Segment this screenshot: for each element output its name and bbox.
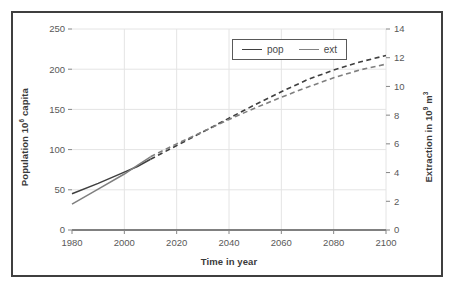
y-axis-right-tick-label: 12 (394, 52, 405, 63)
y-axis-right-title-exponent-2: 3 (422, 92, 429, 96)
x-axis-tick-label: 2100 (375, 237, 396, 248)
y-axis-right-title-exponent: 9 (422, 107, 429, 111)
y-axis-left-title-tail: capita (19, 88, 30, 119)
y-axis-left-tick-label: 50 (54, 184, 65, 195)
series-line-pop-projection (151, 56, 387, 160)
y-axis-right-title-text: Extraction in 10 (423, 110, 434, 182)
series-line-ext-solid (72, 157, 151, 204)
legend-swatch-pop-icon (242, 49, 262, 50)
y-axis-left-title-text: Population 10 (19, 123, 30, 187)
y-axis-right-tick-label: 4 (394, 167, 399, 178)
x-axis-tick-label: 2020 (166, 237, 187, 248)
y-axis-right-tick-label: 2 (394, 196, 399, 207)
y-axis-left-tick-label: 250 (49, 23, 65, 34)
legend-item-ext[interactable]: ext (299, 44, 337, 55)
x-axis-tick-label: 2040 (218, 237, 239, 248)
x-axis-title: Time in year (13, 256, 445, 267)
y-axis-right-tick-label: 6 (394, 138, 399, 149)
x-axis-tick-label: 1980 (61, 237, 82, 248)
series-line-ext-projection (151, 64, 387, 157)
legend-label-pop: pop (267, 44, 284, 55)
x-axis-ticks: 1980200020202040206020802100 (61, 237, 396, 248)
legend-swatch-ext-icon (299, 49, 319, 50)
x-axis-tick-label: 2080 (323, 237, 344, 248)
chart-frame: 050100150200250 02468101214 198020002020… (11, 11, 443, 277)
x-axis-tick-label: 2000 (114, 237, 135, 248)
legend-label-ext: ext (324, 44, 337, 55)
y-axis-right-title-tail: m (423, 95, 434, 106)
y-axis-right-title: Extraction in 109 m3 (422, 52, 434, 222)
legend-item-pop[interactable]: pop (242, 44, 284, 55)
y-axis-right-tick-label: 14 (394, 23, 405, 34)
x-axis-tick-label: 2060 (271, 237, 292, 248)
y-axis-left-tick-label: 0 (60, 224, 65, 235)
y-axis-right-tick-label: 8 (394, 110, 399, 121)
y-axis-right-tick-label: 10 (394, 81, 405, 92)
y-axis-right-tick-label: 0 (394, 224, 399, 235)
y-axis-left-tick-label: 150 (49, 104, 65, 115)
y-axis-left-ticks: 050100150200250 (49, 23, 65, 235)
y-axis-left-title-exponent: 6 (18, 119, 25, 123)
chart-svg: 050100150200250 02468101214 198020002020… (13, 13, 445, 279)
y-axis-left-tick-label: 100 (49, 144, 65, 155)
chart-legend: pop ext (232, 39, 347, 60)
chart-plot-area: 050100150200250 02468101214 198020002020… (13, 13, 441, 275)
y-axis-left-tick-label: 200 (49, 64, 65, 75)
y-axis-left-title: Population 106 capita (18, 52, 30, 222)
y-axis-right-ticks: 02468101214 (394, 23, 405, 235)
